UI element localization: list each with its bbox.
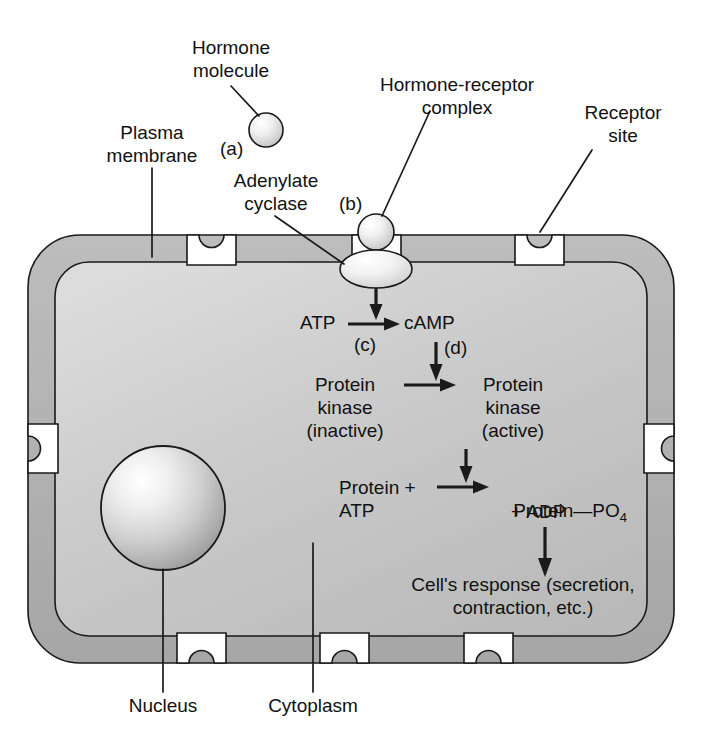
- label-adenylate-cyclase: Adenylate cyclase: [206, 169, 346, 215]
- label-receptor-site: Receptor site: [563, 101, 683, 147]
- diagram-canvas: Hormone molecule Hormone-receptor comple…: [0, 0, 723, 737]
- nucleus-sphere-icon: [101, 446, 225, 570]
- step-marker-d: (d): [444, 336, 484, 359]
- hormone-sphere-icon-bound: [358, 214, 394, 250]
- step-marker-b: (b): [339, 192, 379, 215]
- step-marker-c: (c): [354, 333, 394, 356]
- label-plasma-membrane: Plasma membrane: [82, 121, 222, 167]
- label-nucleus: Nucleus: [108, 694, 218, 717]
- cascade-atp: ATP: [300, 311, 360, 334]
- label-hormone-receptor-complex: Hormone-receptor complex: [352, 73, 562, 119]
- cascade-protein-kinase-active: Protein kinase (active): [458, 373, 568, 442]
- cascade-protein-plus-atp: Protein + ATP: [339, 476, 439, 522]
- phosphoprotein-subscript: 4: [620, 510, 627, 525]
- leader-hormone-molecule: [231, 86, 259, 116]
- cascade-plus-adp: + ADP: [511, 500, 611, 523]
- cascade-camp: cAMP: [404, 311, 484, 334]
- leader-receptor-site: [540, 150, 592, 232]
- leader-hormone-receptor-complex: [382, 111, 430, 216]
- label-cytoplasm: Cytoplasm: [248, 694, 378, 717]
- enzyme-ellipse-icon: [340, 250, 412, 288]
- step-marker-a: (a): [220, 137, 260, 160]
- cascade-cell-response: Cell's response (secretion, contraction,…: [378, 573, 668, 619]
- cascade-protein-kinase-inactive: Protein kinase (inactive): [288, 373, 402, 442]
- label-hormone-molecule: Hormone molecule: [161, 36, 301, 82]
